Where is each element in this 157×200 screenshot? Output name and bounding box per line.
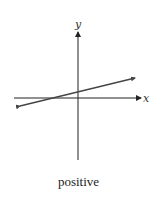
y-axis-label: y: [74, 18, 82, 31]
caption: positive: [0, 174, 157, 190]
x-axis-label: x: [143, 92, 150, 105]
coordinate-plane: y x: [0, 0, 157, 200]
